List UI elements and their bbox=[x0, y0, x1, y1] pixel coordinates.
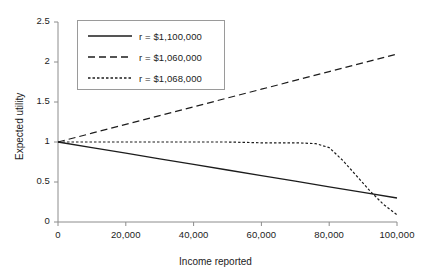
series-line bbox=[58, 142, 397, 215]
x-tick-label: 100,000 bbox=[357, 229, 431, 240]
y-tick-label: 2.5 bbox=[0, 15, 50, 26]
legend-line-swatch bbox=[87, 51, 133, 63]
legend: r = $1,100,000r = $1,060,000r = $1,068,0… bbox=[77, 20, 225, 90]
chart-figure: 00.511.522.5 020,00040,00060,00080,00010… bbox=[0, 0, 431, 277]
legend-item-label: r = $1,068,000 bbox=[139, 73, 202, 84]
y-tick-label: 0.5 bbox=[0, 175, 50, 186]
legend-item: r = $1,100,000 bbox=[78, 26, 224, 46]
x-axis-title: Income reported bbox=[0, 256, 431, 267]
legend-item: r = $1,068,000 bbox=[78, 68, 224, 88]
y-tick-label: 1.5 bbox=[0, 95, 50, 106]
series-line bbox=[58, 142, 397, 198]
x-axis-ticks bbox=[58, 222, 397, 226]
legend-item-label: r = $1,060,000 bbox=[139, 52, 202, 63]
y-axis-title: Expected utility bbox=[14, 93, 25, 160]
legend-item-label: r = $1,100,000 bbox=[139, 31, 202, 42]
y-tick-label: 1 bbox=[0, 135, 50, 146]
legend-item: r = $1,060,000 bbox=[78, 47, 224, 67]
legend-line-swatch bbox=[87, 30, 133, 42]
y-axis-ticks bbox=[54, 22, 58, 222]
y-tick-label: 2 bbox=[0, 55, 50, 66]
legend-line-swatch bbox=[87, 72, 133, 84]
y-tick-label: 0 bbox=[0, 215, 50, 226]
